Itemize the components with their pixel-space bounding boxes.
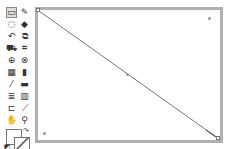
grid-icon: ▦ — [7, 68, 16, 77]
grid-tool[interactable]: ▦ — [6, 67, 17, 78]
line-midpoint[interactable] — [126, 73, 129, 76]
rotate-icon: ↶ — [8, 32, 16, 41]
crop-tool[interactable]: ⊏ — [6, 103, 17, 114]
tool-palette: ▭ ✎ ◌ ◆ ↶ ⧉ ⛟ ⌗ ⊕ ⊗ ▦ ▮ ⁄ ▬ ≣ ▥ ⊏ ⟋ ✋ ⚲ … — [2, 5, 32, 147]
pan-hand-tool[interactable]: ✋ — [6, 115, 17, 126]
scale-icon: ⧉ — [22, 32, 28, 41]
eraser-icon: ▬ — [20, 80, 29, 89]
eyedropper-icon: ⁄ — [11, 80, 13, 89]
line-start-handle[interactable] — [36, 8, 40, 12]
fill-icon: ◆ — [21, 20, 28, 29]
eyedropper-tool[interactable]: ⁄ — [6, 79, 17, 90]
lasso-tool[interactable]: ◌ — [6, 19, 17, 30]
zoom-select-tool[interactable]: ⊕ — [6, 55, 17, 66]
canvas-frame[interactable] — [35, 7, 223, 143]
crop-frame-tool[interactable]: ⌗ — [19, 43, 30, 54]
lasso-icon: ◌ — [8, 20, 16, 29]
gradient-icon: ▮ — [22, 68, 27, 77]
chart-icon: ▥ — [20, 92, 29, 101]
paint-bucket-icon: ⛟ — [6, 44, 17, 53]
crop-frame-icon: ⌗ — [22, 44, 27, 53]
corner-point-top-right[interactable] — [208, 17, 211, 20]
hand-icon: ✋ — [6, 116, 17, 125]
marquee-icon: ▭ — [7, 8, 16, 17]
corner-point-bottom-left[interactable] — [43, 132, 46, 135]
line-end-handle[interactable] — [216, 136, 220, 140]
pencil-icon: ✎ — [21, 8, 29, 17]
dropper-icon: ⟋ — [22, 104, 28, 113]
node-edit-tool[interactable]: ⊗ — [19, 55, 30, 66]
crop-icon: ⊏ — [8, 104, 16, 113]
zoom-select-icon: ⊕ — [8, 56, 16, 65]
paint-bucket-tool[interactable]: ⛟ — [6, 43, 17, 54]
chart-tool[interactable]: ▥ — [19, 91, 30, 102]
eraser-tool[interactable]: ▬ — [19, 79, 30, 90]
node-edit-icon: ⊗ — [21, 56, 29, 65]
pencil-tool[interactable]: ✎ — [19, 7, 30, 18]
magnify-tool[interactable]: ⚲ — [19, 115, 30, 126]
default-colors-icon[interactable]: ◩ — [3, 143, 11, 149]
marquee-select-tool[interactable]: ▭ — [6, 7, 17, 18]
rotate-tool[interactable]: ↶ — [6, 31, 17, 42]
swap-colors-icon[interactable]: ↷ — [22, 127, 30, 135]
diagonal-line[interactable] — [38, 10, 220, 140]
text-align-icon: ≣ — [8, 92, 16, 101]
magnify-icon: ⚲ — [21, 116, 28, 125]
text-align-tool[interactable]: ≣ — [6, 91, 17, 102]
background-color-swatch[interactable] — [14, 137, 30, 149]
dropper-tool[interactable]: ⟋ — [19, 103, 30, 114]
scale-tool[interactable]: ⧉ — [19, 31, 30, 42]
fill-tool[interactable]: ◆ — [19, 19, 30, 30]
gradient-tool[interactable]: ▮ — [19, 67, 30, 78]
